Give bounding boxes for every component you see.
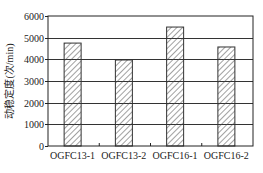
bars — [64, 27, 235, 146]
y-tick-label: 0 — [39, 141, 44, 152]
y-axis-label: 动稳定度(次/min) — [3, 44, 16, 119]
y-tick-label: 5000 — [24, 33, 44, 44]
y-tick-label: 3000 — [24, 76, 44, 87]
x-tick-label: OGFC16-1 — [153, 150, 198, 161]
x-tick-label: OGFC13-1 — [50, 150, 95, 161]
y-tick-label: 1000 — [24, 119, 44, 130]
x-tick-label: OGFC13-2 — [101, 150, 146, 161]
x-tick-label: OGFC16-2 — [204, 150, 249, 161]
bar-ogfc16-1 — [167, 27, 184, 146]
bar-ogfc16-2 — [218, 47, 235, 146]
y-axis-ticks: 0100020003000400050006000 — [24, 11, 48, 152]
bar-chart: 0100020003000400050006000 OGFC13-1OGFC13… — [0, 0, 263, 173]
y-tick-label: 6000 — [24, 11, 44, 22]
bar-ogfc13-1 — [64, 43, 81, 146]
y-tick-label: 4000 — [24, 54, 44, 65]
y-tick-label: 2000 — [24, 98, 44, 109]
bar-ogfc13-2 — [115, 60, 132, 146]
